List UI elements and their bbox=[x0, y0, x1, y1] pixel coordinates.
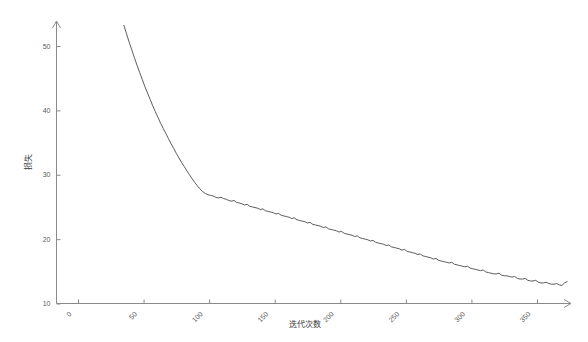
y-axis-title: 损失 bbox=[23, 154, 33, 170]
y-tick-label: 30 bbox=[43, 171, 51, 178]
x-tick-label: 200 bbox=[322, 310, 335, 323]
x-tick-label: 350 bbox=[518, 310, 531, 323]
x-tick-label: 150 bbox=[256, 310, 269, 323]
loss-series-line bbox=[124, 25, 567, 285]
x-tick-label: 100 bbox=[191, 310, 204, 323]
x-tick-label: 0 bbox=[65, 310, 73, 318]
x-tick-label: 300 bbox=[453, 310, 466, 323]
y-axis bbox=[53, 21, 61, 304]
y-tick-label: 40 bbox=[43, 107, 51, 114]
x-axis-title: 迭代次数 bbox=[289, 319, 321, 329]
y-tick-label: 50 bbox=[43, 43, 51, 50]
loss-curve-chart: 1020304050 050100150200250300350 损失 迭代次数 bbox=[0, 0, 588, 342]
chart-canvas: 1020304050 050100150200250300350 损失 迭代次数 bbox=[0, 0, 588, 342]
x-tick-label: 250 bbox=[387, 310, 400, 323]
y-tick-group: 1020304050 bbox=[43, 43, 61, 308]
y-tick-label: 10 bbox=[43, 300, 51, 307]
y-tick-label: 20 bbox=[43, 236, 51, 243]
series-group bbox=[124, 25, 567, 285]
x-tick-label: 50 bbox=[128, 310, 139, 321]
x-axis bbox=[57, 300, 572, 308]
